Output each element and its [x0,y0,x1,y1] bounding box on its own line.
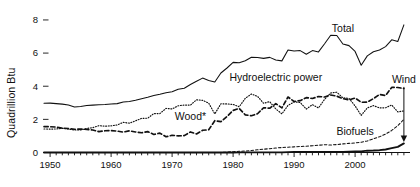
series-annotations: TotalHydroelectric powerWood*BiofuelsWin… [175,22,416,142]
chart-canvas: Quadrillion Btu 02468 195019601970198019… [0,0,420,187]
x-tick-label: 2000 [345,159,366,170]
biofuels-label: Biofuels [336,125,373,137]
total-label: Total [332,22,354,34]
y-tick-label: 0 [33,147,38,158]
y-tick-label: 4 [33,81,38,92]
y-tick-label: 2 [33,114,38,125]
wind-leader-arrowhead [401,135,407,142]
y-axis-title-group: Quadrillion Btu [5,68,17,138]
x-tick-label: 1980 [223,159,244,170]
series-line-total [44,25,404,107]
y-axis-ticks: 02468 [33,14,49,158]
x-tick-label: 1960 [101,159,122,170]
x-tick-label: 1990 [284,159,305,170]
x-tick-label: 1950 [40,159,61,170]
y-axis-title: Quadrillion Btu [5,68,17,138]
hydro-label: Hydroelectric power [229,71,322,83]
series-line-wind [44,143,404,152]
x-axis-ticks: 195019601970198019902000 [40,153,404,170]
wood-label: Wood* [175,110,206,122]
renewable-energy-line-chart: Quadrillion Btu 02468 195019601970198019… [0,0,420,187]
x-tick-label: 1970 [162,159,183,170]
y-tick-label: 6 [33,47,38,58]
y-tick-label: 8 [33,14,38,25]
wind-label: Wind [392,73,416,85]
